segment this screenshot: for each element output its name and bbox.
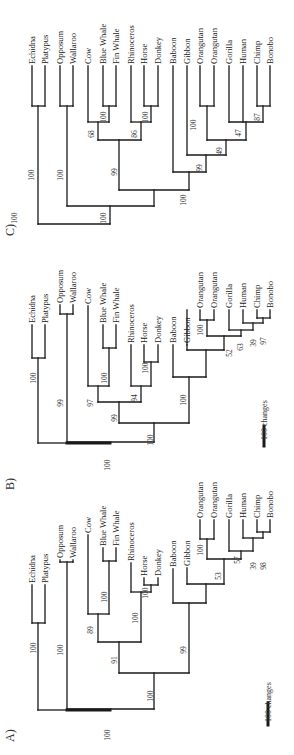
bootstrap-value: 94: [130, 394, 139, 402]
taxon-label: Blue Whale: [98, 283, 108, 323]
panel-label: B): [3, 478, 17, 490]
panel-a-tree: EchidnaPlatypusOpposumWallarooCowBlue Wh…: [3, 481, 275, 742]
bootstrap-value: 98: [259, 562, 268, 570]
taxon-label: Orangutan: [209, 27, 219, 64]
bootstrap-value: 99: [195, 164, 204, 172]
taxon-label: Gorilla: [224, 40, 234, 64]
taxon-label: Orangutan: [195, 271, 205, 308]
taxon-label: Fin Whale: [111, 28, 121, 64]
bootstrap-value: 100: [196, 544, 205, 556]
bootstrap-value: 100: [56, 169, 65, 181]
taxon-label: Platypus: [40, 294, 50, 323]
taxon-label: Human: [238, 492, 248, 518]
bootstrap-value: 100: [131, 612, 140, 624]
taxon-label: Gibbon: [182, 38, 192, 64]
taxon-label: Rhinoceros: [126, 522, 136, 561]
bootstrap-value: 100: [29, 372, 38, 384]
taxon-label: Orangutan: [209, 271, 219, 308]
taxon-label: Chimp: [252, 495, 262, 518]
taxon-label: Echidna: [27, 295, 37, 323]
panel-label: A): [3, 729, 17, 742]
bootstrap-value: 99: [56, 399, 65, 407]
bootstrap-value: 100: [99, 111, 108, 123]
bootstrap-value: 100: [179, 194, 188, 206]
taxon-label: Human: [238, 282, 248, 308]
bootstrap-value: 100: [100, 591, 109, 603]
taxon-label: Orangutan: [195, 481, 205, 518]
bootstrap-value: 100: [99, 212, 108, 224]
taxon-label: Platypus: [40, 35, 50, 64]
taxon-label: Chimp: [252, 41, 262, 64]
taxon-label: Baboon: [168, 316, 178, 343]
taxon-label: Wallaroo: [68, 272, 78, 303]
taxon-label: Horse: [139, 43, 149, 64]
taxon-label: Cow: [83, 516, 93, 533]
taxon-label: Horse: [139, 322, 149, 343]
bootstrap-value: 49: [215, 147, 224, 155]
bootstrap-value: 86: [130, 130, 139, 138]
taxon-label: Bonobo: [265, 37, 275, 64]
bootstrap-value: 97: [86, 399, 95, 407]
taxon-label: Donkey: [153, 36, 163, 64]
taxon-label: Gorilla: [224, 494, 234, 518]
bootstrap-value: 39: [249, 562, 258, 570]
bootstrap-value: 100: [141, 111, 150, 123]
taxon-label: Baboon: [168, 37, 178, 64]
bootstrap-value: 100: [29, 642, 38, 654]
bootstrap-value: 100: [10, 212, 19, 224]
taxon-label: Blue Whale: [98, 24, 108, 64]
bootstrap-value: 99: [110, 414, 119, 422]
taxon-label: Opposum: [55, 525, 65, 558]
taxon-label: Baboon: [168, 540, 178, 567]
taxon-label: Wallaroo: [68, 527, 78, 558]
taxon-label: Chimp: [252, 285, 262, 308]
taxon-label: Bonobo: [265, 491, 275, 518]
taxon-label: Gibbon: [182, 540, 192, 566]
taxon-label: Gibbon: [182, 317, 192, 343]
bootstrap-value: 100: [141, 587, 150, 599]
taxon-label: Wallaroo: [68, 33, 78, 64]
bootstrap-value: 52: [225, 349, 234, 357]
bootstrap-value: 99: [179, 646, 188, 654]
bootstrap-value: 100: [179, 394, 188, 406]
taxon-label: Horse: [139, 555, 149, 576]
taxon-label: Fin Whale: [111, 287, 121, 323]
taxon-label: Human: [238, 38, 248, 64]
taxon-label: Echidna: [27, 36, 37, 64]
bootstrap-value: 100: [103, 729, 112, 741]
panel-label: C): [3, 224, 17, 236]
taxon-label: Donkey: [153, 548, 163, 576]
taxon-label: Rhinoceros: [126, 25, 136, 64]
bootstrap-value: 87: [253, 113, 262, 121]
bootstrap-value: 100: [56, 644, 65, 656]
bootstrap-value: 99: [110, 168, 119, 176]
bootstrap-value: 100: [146, 690, 155, 702]
bootstrap-value: 39: [249, 339, 258, 347]
taxon-label: Gorilla: [224, 284, 234, 308]
scale-bar-label: 100 changes: [260, 400, 269, 440]
taxon-label: Cow: [83, 47, 93, 64]
panel-c-tree: EchidnaPlatypusOpposumWallarooCowBlue Wh…: [3, 24, 275, 236]
bootstrap-value: 100: [27, 169, 36, 181]
bootstrap-value: 97: [259, 337, 268, 345]
taxon-label: Opposum: [55, 270, 65, 303]
bootstrap-value: 57: [233, 556, 242, 564]
bootstrap-value: 100: [189, 119, 198, 131]
taxon-label: Rhinoceros: [126, 304, 136, 343]
bootstrap-value: 100: [103, 459, 112, 471]
bootstrap-value: 100: [146, 434, 155, 446]
taxon-label: Bonobo: [265, 281, 275, 308]
bootstrap-value: 68: [87, 130, 96, 138]
panel-b-tree: EchidnaPlatypusOpposumWallarooCowBlue Wh…: [3, 270, 275, 490]
taxon-label: Orangutan: [209, 481, 219, 518]
taxon-label: Cow: [83, 287, 93, 304]
taxon-label: Donkey: [153, 315, 163, 343]
bootstrap-value: 100: [100, 372, 109, 384]
bootstrap-value: 100: [196, 324, 205, 336]
taxon-label: Platypus: [40, 554, 50, 583]
bootstrap-value: 89: [86, 626, 95, 634]
bootstrap-value: 91: [110, 656, 119, 664]
bootstrap-value: 100: [141, 362, 150, 374]
taxon-label: Blue Whale: [98, 506, 108, 546]
bootstrap-value: 63: [236, 343, 245, 351]
